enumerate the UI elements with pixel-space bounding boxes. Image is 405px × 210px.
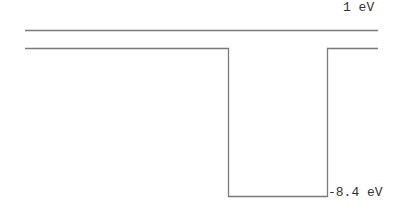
potential-well-line: [25, 49, 378, 197]
energy-diagram: 1 eV -8.4 eV: [0, 0, 405, 210]
well-bottom-label: -8.4 eV: [328, 185, 383, 200]
top-level-label: 1 eV: [343, 0, 374, 15]
